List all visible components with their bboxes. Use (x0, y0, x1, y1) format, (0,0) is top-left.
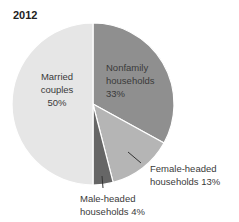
label-line: 33% (106, 87, 155, 100)
label-line: Married (22, 70, 92, 83)
label-married-couples: Married couples 50% (22, 70, 92, 109)
label-line: Nonfamily (106, 61, 155, 74)
label-line: 50% (22, 96, 92, 109)
label-female-headed-households: Female-headed households 13% (150, 162, 220, 188)
label-line: households (106, 74, 155, 87)
pie-chart (0, 0, 239, 222)
label-line: Male-headed (80, 192, 145, 205)
label-nonfamily-households: Nonfamily households 33% (106, 61, 155, 100)
label-line: households 4% (80, 205, 145, 218)
label-line: Female-headed (150, 162, 220, 175)
label-line: households 13% (150, 175, 220, 188)
label-line: couples (22, 83, 92, 96)
label-male-headed-households: Male-headed households 4% (80, 192, 145, 218)
